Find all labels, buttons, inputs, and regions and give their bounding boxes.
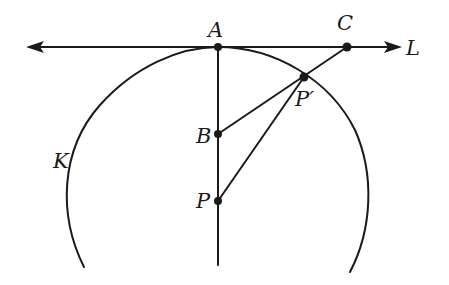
label-c: C bbox=[337, 11, 353, 35]
label-a: A bbox=[206, 18, 223, 42]
point-b bbox=[214, 130, 222, 138]
label-k: K bbox=[52, 149, 70, 173]
segment-b-c bbox=[218, 47, 347, 134]
point-a bbox=[214, 43, 222, 51]
label-l: L bbox=[405, 36, 420, 60]
point-p bbox=[214, 197, 222, 205]
label-p: P bbox=[195, 189, 211, 213]
diagram-canvas: A C L P′ B K P bbox=[0, 0, 449, 285]
label-b: B bbox=[195, 124, 211, 148]
label-p-prime: P′ bbox=[294, 87, 314, 111]
point-p-prime bbox=[300, 73, 309, 82]
geometry-diagram: A C L P′ B K P bbox=[0, 0, 449, 285]
segment-p-pprime bbox=[218, 77, 304, 201]
point-c bbox=[343, 43, 352, 52]
